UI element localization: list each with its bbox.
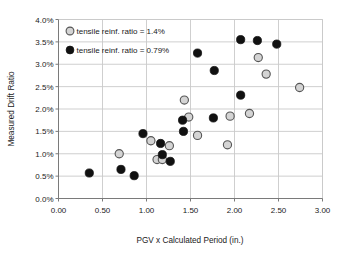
legend-label-1: tensile reinf. ratio = 1.4% xyxy=(77,27,165,36)
data-point-series-2 xyxy=(273,40,281,48)
data-point-series-1 xyxy=(180,96,188,104)
x-axis-title: PGV x Calculated Period (in.) xyxy=(137,236,244,245)
x-tick-label: 0.00 xyxy=(51,206,67,215)
data-point-series-1 xyxy=(115,150,123,158)
data-point-series-1 xyxy=(226,112,234,120)
data-point-series-2 xyxy=(85,169,93,177)
y-tick-label: 3.0% xyxy=(35,60,53,69)
data-point-series-2 xyxy=(237,36,245,44)
data-point-series-2 xyxy=(117,165,125,173)
data-point-series-2 xyxy=(139,130,147,138)
data-point-series-1 xyxy=(254,53,262,61)
data-point-series-2 xyxy=(178,116,186,124)
y-tick-label: 0.5% xyxy=(35,172,53,181)
y-tick-label: 2.5% xyxy=(35,83,53,92)
data-point-series-2 xyxy=(130,172,138,180)
x-tick-label: 1.50 xyxy=(183,206,199,215)
data-point-series-1 xyxy=(262,70,270,78)
data-point-series-1 xyxy=(193,131,201,139)
y-tick-label: 0.0% xyxy=(35,195,53,204)
y-tick-label: 1.5% xyxy=(35,127,53,136)
y-tick-label: 3.5% xyxy=(35,38,53,47)
x-tick-label: 2.00 xyxy=(227,206,243,215)
data-point-series-2 xyxy=(166,157,174,165)
data-point-series-2 xyxy=(158,151,166,159)
data-point-series-2 xyxy=(210,66,218,74)
legend-label-2: tensile reinf. ratio = 0.79% xyxy=(77,46,170,55)
data-point-series-2 xyxy=(209,114,217,122)
scatter-chart: 0.000.501.001.502.002.503.00 0.0%0.5%1.0… xyxy=(0,0,348,253)
data-point-series-1 xyxy=(165,142,173,150)
data-point-series-2 xyxy=(253,36,261,44)
y-tick-label: 2.0% xyxy=(35,105,53,114)
data-point-series-1 xyxy=(147,137,155,145)
y-tick-label: 4.0% xyxy=(35,16,53,25)
y-axis-title: Measured Drift Ratio xyxy=(7,71,16,147)
chart-canvas: 0.000.501.001.502.002.503.00 0.0%0.5%1.0… xyxy=(0,0,348,253)
legend-marker-2 xyxy=(66,46,74,54)
x-tick-label: 1.00 xyxy=(139,206,155,215)
x-tick-label: 0.50 xyxy=(95,206,111,215)
data-point-series-2 xyxy=(193,49,201,57)
y-tick-label: 1.0% xyxy=(35,150,53,159)
data-point-series-1 xyxy=(223,141,231,149)
legend-marker-1 xyxy=(66,27,74,35)
data-point-series-2 xyxy=(237,91,245,99)
data-point-series-1 xyxy=(296,83,304,91)
x-tick-label: 3.00 xyxy=(315,206,331,215)
data-point-series-2 xyxy=(179,127,187,135)
data-point-series-1 xyxy=(245,109,253,117)
x-tick-label: 2.50 xyxy=(271,206,287,215)
data-point-series-2 xyxy=(156,139,164,147)
